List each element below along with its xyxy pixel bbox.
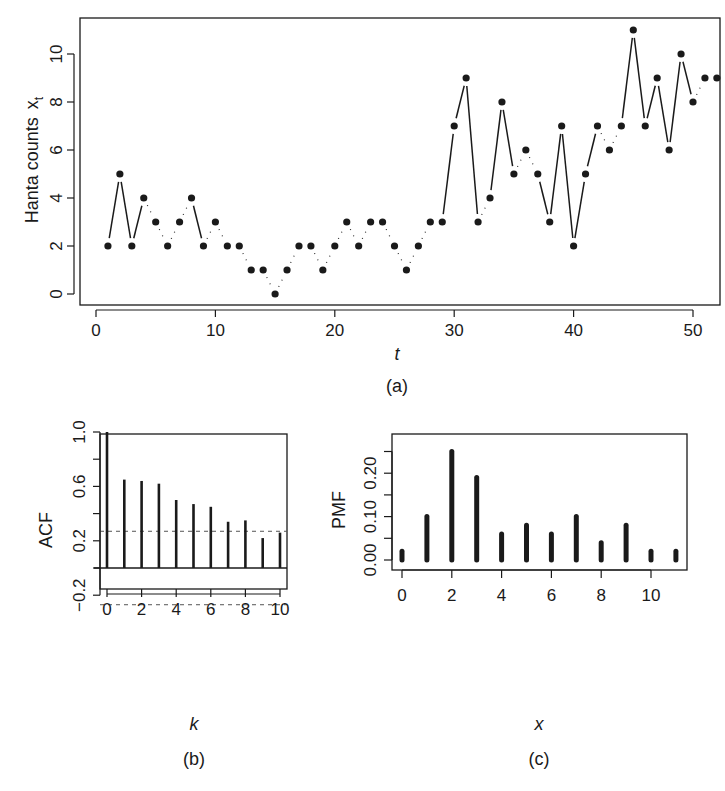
data-point [295,242,302,249]
panel-c-plot-frame [392,434,687,570]
y-tick-label: 0.20 [361,457,380,490]
x-tick-label: 8 [596,586,605,605]
data-point [367,218,374,225]
connecting-segment [540,182,548,214]
connecting-segment [398,253,403,263]
connecting-segment [443,134,453,214]
x-tick-label: 10 [271,600,290,619]
connecting-segment [658,86,667,142]
data-point [451,122,458,129]
connecting-segment [647,86,655,118]
connecting-segment [482,205,487,215]
x-tick-label: 10 [642,586,661,605]
y-tick-label: 6 [47,145,66,154]
connecting-segment [219,229,224,239]
data-point [224,242,231,249]
data-point [260,266,267,273]
connecting-segment [147,205,152,215]
data-point [355,242,362,249]
connecting-segment [350,229,355,239]
connecting-segment [314,253,319,263]
data-point [164,242,171,249]
data-point [212,218,219,225]
connecting-segment [338,229,343,239]
data-point [463,74,470,81]
panel-a-y-axis: 0246810 [47,45,74,299]
x-tick-label: 4 [171,600,180,619]
connecting-segment [634,38,644,118]
data-point [403,266,410,273]
x-tick-label: 0 [397,586,406,605]
data-point [319,266,326,273]
connecting-segment [467,86,478,214]
panel-c-x-axis: 0246810 [397,570,660,605]
panel-a-x-axis: 01020304050 [91,310,702,340]
data-point [152,218,159,225]
connecting-segment [267,277,272,287]
data-point [630,26,637,33]
panel-c-caption: (c) [529,749,550,769]
data-point [176,218,183,225]
y-tick-label: 8 [47,97,66,106]
connecting-segment [121,182,130,238]
connecting-segment [613,133,618,143]
data-point [104,242,111,249]
panel-a-connecting-lines [109,38,701,287]
data-point [474,218,481,225]
data-point [594,122,601,129]
x-tick-label: 0 [91,321,100,340]
data-point [128,242,135,249]
panel-c-pmf: 0246810 0.000.100.20 x PMF (c) [329,434,687,769]
connecting-segment [551,134,561,214]
x-tick-label: 2 [137,600,146,619]
panel-b-y-label: ACF [36,512,56,548]
x-tick-label: 4 [497,586,506,605]
data-point [558,122,565,129]
connecting-segment [279,277,284,287]
panel-a-x-label: t [394,344,400,364]
data-point [486,194,493,201]
panel-a-plot-frame [80,18,720,305]
connecting-segment [517,157,522,167]
y-tick-label: 0.6 [70,475,89,499]
data-point [307,242,314,249]
data-point [546,218,553,225]
y-tick-label: 10 [47,45,66,64]
y-tick-label: 0.10 [361,500,380,533]
connecting-segment [491,110,501,190]
data-point [379,218,386,225]
x-tick-label: 0 [102,600,111,619]
connecting-segment [456,86,464,118]
connecting-segment [386,229,391,239]
data-point [200,242,207,249]
panel-a-caption: (a) [386,376,408,396]
x-tick-label: 2 [447,586,456,605]
data-point [188,194,195,201]
panel-c-y-axis: 0.000.100.20 [361,452,392,577]
panel-c-pmf-stems [402,452,676,561]
connecting-segment [529,157,534,167]
x-tick-label: 10 [206,321,225,340]
connecting-segment [109,182,118,238]
connecting-segment [562,134,572,238]
data-point [534,170,541,177]
panel-b-acf: 0246810 −0.20.20.61.0 k ACF (b) [36,420,289,769]
connecting-segment [171,229,176,239]
panel-b-y-axis: −0.20.20.61.0 [70,420,100,612]
data-point [618,122,625,129]
x-tick-label: 50 [684,321,703,340]
connecting-segment [587,134,595,166]
connecting-segment [207,229,212,239]
data-point [427,218,434,225]
data-point [236,242,243,249]
data-point [713,74,720,81]
data-point [439,218,446,225]
panel-a-y-label: Hanta countsxt [22,96,46,223]
connecting-segment [243,253,248,263]
data-point [331,242,338,249]
y-tick-label: −0.2 [70,578,89,612]
data-point [283,266,290,273]
data-point [343,218,350,225]
data-point [582,170,589,177]
x-tick-label: 40 [564,321,583,340]
